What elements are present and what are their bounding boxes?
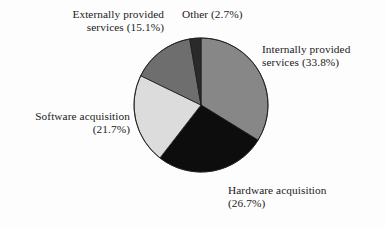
pie-chart-figure: Externally provided services (15.1%) Oth… (0, 0, 385, 227)
pie-label-hardware-acquisition: Hardware acquisition (26.7%) (228, 184, 374, 210)
pie-label-externally-provided-services: Externally provided services (15.1%) (22, 8, 164, 34)
pie-label-software-acquisition: Software acquisition (21.7%) (2, 110, 130, 136)
pie-label-other: Other (2.7%) (182, 8, 292, 21)
pie-label-internally-provided-services: Internally provided services (33.8%) (262, 43, 384, 69)
pie-slice-group (134, 38, 268, 172)
